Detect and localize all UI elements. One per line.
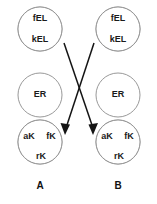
arrow-a-top-to-b-bottom-head [89, 123, 99, 135]
segment-label-b-kel: kEL [110, 34, 127, 44]
segment-label-b-rk: rK [114, 151, 125, 161]
segment-label-b-er: ER [112, 89, 125, 99]
arrow-b-top-to-a-bottom-shaft [66, 43, 94, 128]
segment-label-a-er: ER [34, 89, 47, 99]
segment-label-a-rk: rK [36, 151, 47, 161]
circle-a-top[interactable]: fEL kEL [18, 7, 62, 51]
arrow-b-top-to-a-bottom-head [61, 123, 71, 135]
column-label-b: B [114, 180, 121, 191]
column-a: fEL kEL ER aK fK rK A [18, 7, 62, 191]
segment-label-a-kel: kEL [32, 34, 49, 44]
segment-label-a-fk: fK [46, 131, 56, 141]
circle-b-middle[interactable]: ER [96, 73, 140, 117]
figure-canvas: fEL kEL ER aK fK rK A [0, 0, 157, 204]
arrow-b-top-to-a-bottom [61, 43, 95, 135]
segment-label-a-ak: aK [23, 131, 35, 141]
circle-b-top[interactable]: fEL kEL [96, 7, 140, 51]
segment-label-b-ak: aK [101, 131, 113, 141]
column-b: fEL kEL ER aK fK rK B [96, 7, 140, 191]
circle-b-bottom[interactable]: aK fK rK [96, 120, 140, 164]
segment-label-b-fk: fK [124, 131, 134, 141]
column-label-a: A [36, 180, 43, 191]
segment-label-b-fel: fEL [111, 13, 126, 23]
arrow-a-top-to-b-bottom [64, 43, 98, 135]
arrow-a-top-to-b-bottom-shaft [64, 43, 93, 128]
circle-a-middle[interactable]: ER [18, 73, 62, 117]
circle-a-bottom[interactable]: aK fK rK [18, 120, 62, 164]
compartment-diagram: fEL kEL ER aK fK rK A [0, 0, 157, 204]
segment-label-a-fel: fEL [33, 13, 48, 23]
